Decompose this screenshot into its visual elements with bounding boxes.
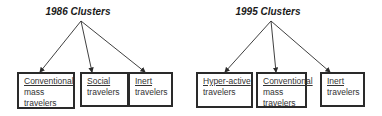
diagram-title-1995: 1995 Clusters: [235, 6, 300, 17]
cluster-box-1995-hyperactive: Hyper-active travelers: [196, 72, 253, 108]
cluster-box-1995-conventional: Conventional mass travelers: [256, 72, 307, 108]
arrow-1995-conventional: [271, 21, 276, 72]
cluster-box-1986-inert: Inert travelers: [128, 72, 173, 107]
cluster-label-line: travelers: [203, 87, 251, 98]
cluster-name: Hyper-active: [203, 76, 251, 87]
cluster-label-line: mass: [24, 87, 73, 98]
cluster-name: Conventional: [263, 76, 305, 87]
arrow-1995-inert: [271, 21, 330, 72]
cluster-label-line: travelers: [135, 87, 171, 98]
cluster-box-1995-inert: Inert travelers: [320, 72, 365, 107]
cluster-label-line: mass: [263, 87, 305, 98]
cluster-name: Conventional: [24, 76, 73, 87]
diagram-title-1986: 1986 Clusters: [45, 6, 110, 17]
cluster-name: Social: [87, 76, 127, 87]
cluster-box-1986-social: Social travelers: [80, 72, 129, 107]
cluster-box-1986-conventional: Conventional mass travelers: [17, 72, 75, 109]
cluster-label-line: travelers: [263, 98, 305, 109]
cluster-name: Inert: [327, 76, 363, 87]
cluster-label-line: travelers: [327, 87, 363, 98]
cluster-name: Inert: [135, 76, 171, 87]
cluster-label-line: travelers: [87, 87, 127, 98]
arrow-1995-hyperactive: [225, 21, 271, 72]
cluster-label-line: travelers: [24, 98, 73, 109]
arrow-1986-conventional: [40, 21, 81, 72]
